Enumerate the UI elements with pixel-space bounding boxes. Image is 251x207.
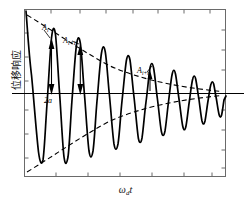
- annotation-peak-i: Ai: [42, 23, 48, 33]
- x-axis-time-var: t: [129, 184, 132, 195]
- x-axis-label: ωdt: [0, 184, 251, 197]
- y-axis-label: 位移响应: [8, 29, 23, 111]
- peak-i1-sub: i+1: [68, 40, 76, 46]
- peak-in-sub: i+n: [142, 70, 150, 76]
- chart-canvas: [0, 0, 251, 207]
- annotation-amplitude-2a: 2a: [44, 96, 52, 105]
- damped-vibration-figure: 位移响应 ωdt Ai Ai+1 Ai+n 2a: [0, 0, 251, 207]
- annotation-peak-i1: Ai+1: [63, 36, 76, 46]
- annotation-peak-in: Ai+n: [137, 66, 150, 76]
- peak-i-sub: i: [47, 27, 49, 33]
- x-axis-omega: ω: [119, 184, 126, 195]
